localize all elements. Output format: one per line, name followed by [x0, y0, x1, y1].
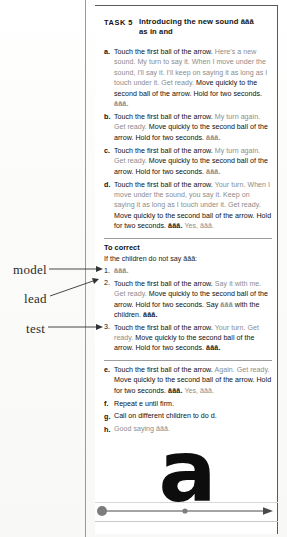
step-text: Touch the first ball of the arrow. Here'… [114, 47, 272, 110]
step-praise: Yes, ăăă. [184, 222, 214, 230]
step-f: f. Repeat e until firm. [104, 399, 272, 409]
step-script: Again. Get ready. [214, 366, 269, 374]
step-teacher-action: Touch the first ball of the arrow. [114, 366, 213, 374]
sound-display-zone: a [95, 432, 278, 534]
step-c: c. Touch the first ball of the arrow. My… [104, 146, 272, 177]
divider-above-correction [104, 238, 272, 239]
step-teacher-action: Touch the first ball of the arrow. [114, 113, 213, 121]
correction-teacher-action: Touch the first ball of the arrow. [114, 280, 213, 288]
correction-sound: ăăă. [114, 267, 129, 275]
step-text: Touch the first ball of the arrow. My tu… [114, 112, 272, 143]
task-title: Introducing the new sound ăăă as in and [139, 17, 254, 38]
step-sound: ăăă. [206, 134, 221, 142]
margin-annotation-layer: model lead test [0, 0, 100, 537]
step-instruction: Call on different children to do d. [114, 412, 217, 420]
correction-sound: ăăă. [206, 344, 221, 352]
second-ball-icon [182, 508, 187, 513]
correction-step-2: 2. Touch the first ball of the arrow. Sa… [104, 279, 272, 321]
step-instruction: Repeat e until firm. [114, 400, 174, 408]
step-teacher-action: Touch the first ball of the arrow. [114, 48, 213, 56]
step-b: b. Touch the first ball of the arrow. My… [104, 112, 272, 143]
step-teacher-action: Touch the first ball of the arrow. [114, 147, 213, 155]
sounding-out-arrow [95, 500, 278, 522]
correction-text: Touch the first ball of the arrow. Your … [114, 323, 272, 354]
step-sound: ăăă. [168, 222, 183, 230]
annotation-lead: lead [24, 291, 47, 307]
step-teacher-action: Touch the first ball of the arrow. [114, 181, 213, 189]
arrow-head-icon [263, 507, 273, 515]
step-text: Touch the first ball of the arrow. Again… [114, 365, 272, 396]
step-text: Touch the first ball of the arrow. My tu… [114, 146, 272, 177]
step-text: Touch the first ball of the arrow. Your … [114, 180, 272, 232]
correction-teacher-action-2: Move quickly to the second ball of the a… [114, 334, 254, 352]
correction-lede: If the children do not say ăăă: [104, 254, 272, 264]
baseline-rule-lower [95, 521, 278, 522]
correction-text: ăăă. [114, 266, 272, 276]
step-sound: ăăă. [168, 387, 183, 395]
page-content: TASK 5 Introducing the new sound ăăă as … [104, 17, 272, 437]
correction-text: Touch the first ball of the arrow. Say i… [114, 279, 272, 321]
correction-teacher-action: Touch the first ball of the arrow. [114, 324, 213, 332]
task-title-line1: Introducing the new sound ăăă [139, 17, 254, 26]
annotation-test: test [26, 321, 45, 337]
task-title-line2: as in and [139, 27, 173, 36]
correction-step-1: 1. ăăă. [104, 266, 272, 276]
task-header: TASK 5 Introducing the new sound ăăă as … [104, 17, 272, 38]
correction-sound: ăăă. [143, 311, 158, 319]
step-sound: ăăă. [206, 168, 221, 176]
divider-below-correction [104, 360, 272, 361]
correction-sound-mid: ăăă [220, 301, 232, 309]
correction-step-3: 3. Touch the first ball of the arrow. Yo… [104, 323, 272, 354]
correction-heading: To correct [104, 243, 272, 252]
step-d: d. Touch the first ball of the arrow. Yo… [104, 180, 272, 232]
step-a: a. Touch the first ball of the arrow. He… [104, 47, 272, 110]
step-e: e. Touch the first ball of the arrow. Ag… [104, 365, 272, 396]
step-sound: ăăă. [114, 100, 129, 108]
step-praise: Yes, ăăă. [184, 387, 214, 395]
step-text: Repeat e until firm. [114, 399, 272, 409]
annotation-model: model [13, 262, 47, 278]
